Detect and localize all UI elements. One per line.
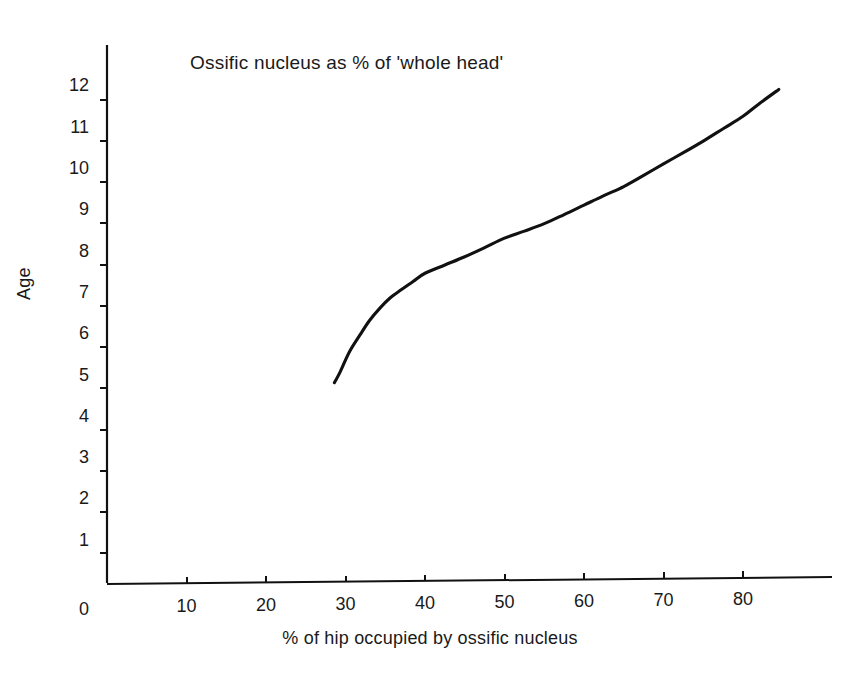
x-tick-label: 70 — [647, 590, 681, 611]
x-axis-label: % of hip occupied by ossific nucleus — [0, 628, 860, 649]
y-tick-label: 0 — [55, 599, 89, 620]
y-tick-label: 2 — [55, 488, 89, 509]
y-tick-label: 11 — [55, 117, 89, 138]
y-tick-label: 12 — [55, 75, 89, 96]
y-tick-label: 1 — [55, 530, 89, 551]
y-tick-label: 4 — [55, 406, 89, 427]
x-tick-label: 40 — [408, 593, 442, 614]
x-tick-label: 60 — [567, 591, 601, 612]
x-tick-label: 50 — [488, 592, 522, 613]
y-axis-label: Age — [14, 267, 35, 300]
y-tick-label: 3 — [55, 447, 89, 468]
y-tick-label: 9 — [55, 199, 89, 220]
x-tick-label: 10 — [170, 596, 204, 617]
chart-figure: Ossific nucleus as % of 'whole head' Age… — [0, 0, 860, 682]
x-tick-label: 20 — [249, 595, 283, 616]
chart-title: Ossific nucleus as % of 'whole head' — [190, 52, 503, 74]
y-tick-label: 7 — [55, 282, 89, 303]
y-tick-label: 6 — [55, 323, 89, 344]
x-tick-label: 80 — [726, 589, 760, 610]
y-tick-label: 8 — [55, 241, 89, 262]
plot-area — [0, 0, 860, 682]
y-tick-label: 5 — [55, 365, 89, 386]
x-tick-label: 30 — [329, 594, 363, 615]
x-axis-line — [107, 577, 832, 584]
data-curve — [334, 89, 778, 382]
y-tick-label: 10 — [55, 158, 89, 179]
